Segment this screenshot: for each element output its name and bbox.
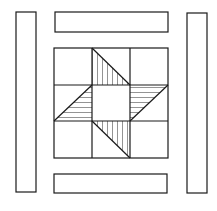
center-block-outline [54,48,168,158]
top-border-strip [55,12,168,32]
right-border-strip [187,13,207,193]
left-border-strip [16,12,36,192]
quilt-diagram [0,0,217,211]
bottom-border-strip [54,174,167,193]
